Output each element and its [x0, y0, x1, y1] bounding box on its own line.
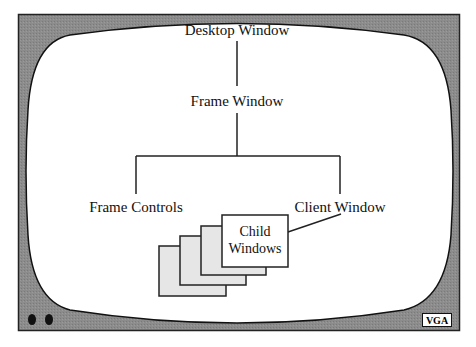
vga-badge: VGA [422, 313, 452, 327]
monitor-button-2 [45, 314, 53, 325]
child-windows-label: Child Windows [222, 223, 288, 257]
child-windows-line1: Child [222, 223, 288, 240]
frame-window-label: Frame Window [191, 94, 284, 109]
child-windows-line2: Windows [222, 240, 288, 257]
frame-controls-label: Frame Controls [89, 200, 183, 215]
desktop-window-label: Desktop Window [185, 23, 290, 38]
monitor-button-1 [28, 314, 36, 325]
client-window-label: Client Window [294, 200, 385, 215]
monitor-diagram [0, 0, 476, 347]
